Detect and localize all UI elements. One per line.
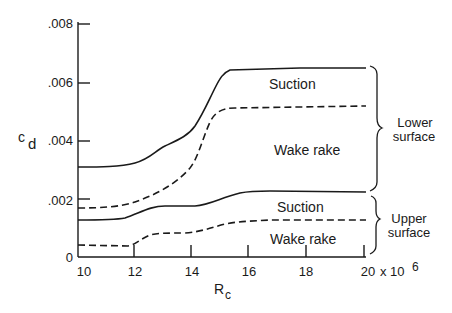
axes — [78, 22, 366, 257]
label-upper-suction: Suction — [277, 199, 324, 215]
y-label-sub: d — [28, 135, 36, 152]
x-label-main: R — [214, 281, 224, 297]
x-tick-18: 18 — [299, 264, 313, 279]
drag-coefficient-chart: .008 .006 .004 .002 0 c d 10 12 14 16 18… — [0, 0, 452, 313]
label-lower-wake-rake: Wake rake — [274, 142, 341, 158]
y-tick-labels: .008 .006 .004 .002 0 — [48, 16, 73, 265]
y-tick-008: .008 — [48, 16, 73, 31]
upper-surface-label-line1: Upper — [391, 211, 427, 226]
lower-surface-brace — [370, 66, 382, 191]
x-multiplier: x 10 — [380, 264, 405, 279]
upper-surface-brace — [370, 196, 380, 254]
x-label-sub: c — [225, 288, 231, 302]
x-tick-12: 12 — [128, 264, 142, 279]
x-multiplier-exponent: 6 — [412, 260, 419, 274]
lower-surface-label-line2: surface — [393, 129, 436, 144]
x-tick-14: 14 — [185, 264, 199, 279]
y-label-main: c — [18, 129, 25, 145]
x-tick-20: 20 — [361, 264, 375, 279]
bracket-labels: Lower surface Upper surface — [388, 115, 436, 240]
x-tick-labels: 10 12 14 16 18 20 — [77, 264, 375, 279]
x-tick-16: 16 — [242, 264, 256, 279]
y-tick-002: .002 — [48, 193, 73, 208]
curve-annotations: Suction Wake rake Suction Wake rake — [269, 76, 341, 247]
x-tick-10: 10 — [77, 264, 91, 279]
y-axis-label: c d — [18, 129, 36, 152]
upper-surface-label-line2: surface — [388, 225, 431, 240]
y-tick-006: .006 — [48, 75, 73, 90]
x-axis-label: R c — [214, 281, 231, 302]
label-upper-wake-rake: Wake rake — [270, 231, 337, 247]
y-tick-004: .004 — [48, 133, 73, 148]
y-tick-0: 0 — [66, 250, 73, 265]
lower-surface-label-line1: Lower — [397, 115, 433, 130]
brackets — [370, 66, 382, 254]
label-lower-suction: Suction — [269, 76, 316, 92]
